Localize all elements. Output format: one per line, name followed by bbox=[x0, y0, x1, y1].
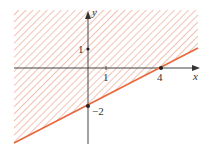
y-tick-label-1: 1 bbox=[78, 43, 84, 55]
inequality-graph: y x 1 1 4 −2 bbox=[0, 0, 212, 154]
x-tick-label-1: 1 bbox=[103, 71, 109, 83]
y-tick-label-neg2: −2 bbox=[92, 105, 104, 117]
y-axis-label: y bbox=[91, 6, 97, 18]
x-axis-label: x bbox=[192, 70, 198, 82]
point-x-intercept bbox=[159, 66, 163, 70]
x-tick-label-4: 4 bbox=[157, 71, 163, 83]
point-y-intercept bbox=[86, 104, 90, 108]
point-y-1 bbox=[86, 47, 89, 50]
